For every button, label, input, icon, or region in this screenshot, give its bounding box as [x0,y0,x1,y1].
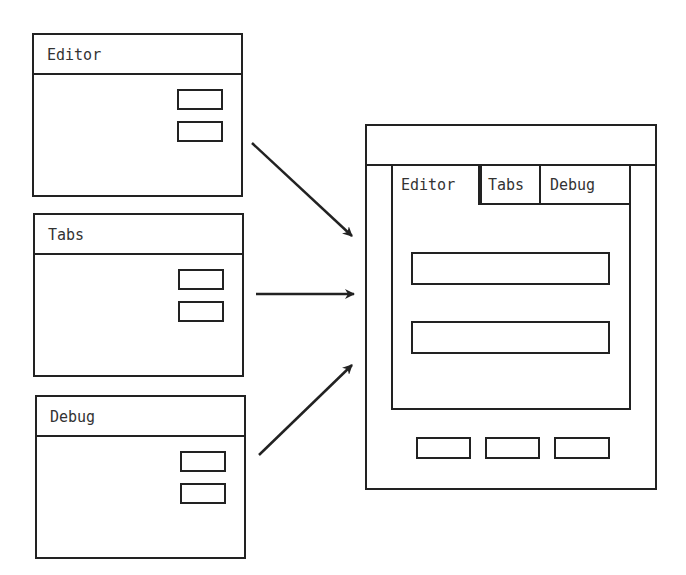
main-window-titlebar [367,126,655,166]
field-2[interactable] [411,321,610,354]
bottom-button-3[interactable] [554,437,610,459]
tab-debug-label: Debug [550,176,595,194]
field-1[interactable] [411,252,610,285]
tab-panel: Editor Tabs Debug [391,164,631,410]
tab-editor[interactable]: Editor [393,164,480,205]
main-window: Editor Tabs Debug [365,124,657,490]
bottom-button-2[interactable] [485,437,540,459]
tab-editor-label: Editor [401,176,455,194]
arrow-editor-icon [252,143,352,236]
arrow-debug-icon [259,365,352,455]
tab-tabs[interactable]: Tabs [480,164,541,205]
tab-debug[interactable]: Debug [541,164,629,205]
bottom-button-1[interactable] [416,437,471,459]
tab-tabs-label: Tabs [488,176,524,194]
